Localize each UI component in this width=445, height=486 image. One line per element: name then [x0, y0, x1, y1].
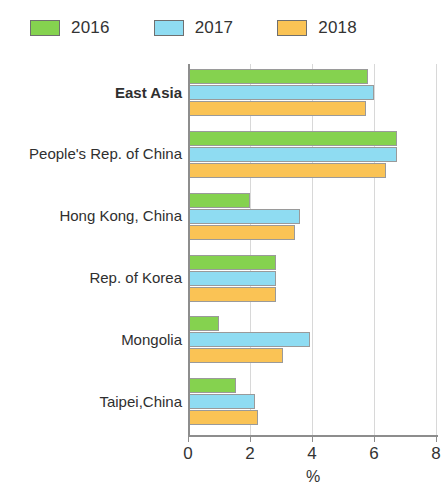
bar-2018 [188, 410, 258, 425]
bar-2017 [188, 85, 374, 100]
x-tick-mark [250, 437, 251, 442]
bar-2017 [188, 271, 276, 286]
bar-group [188, 378, 436, 430]
bar-2016 [188, 193, 250, 208]
bar-2016 [188, 131, 397, 146]
bar-2018 [188, 287, 276, 302]
x-axis-title: % [188, 468, 438, 486]
chart-legend: 2016 2017 2018 [0, 0, 439, 56]
category-label: People's Rep. of China [2, 145, 182, 162]
bar-2016 [188, 378, 236, 393]
x-tick-mark [312, 437, 313, 442]
bar-group [188, 316, 436, 368]
x-tick-mark [436, 437, 437, 442]
bar-2016 [188, 255, 276, 270]
bar-2017 [188, 394, 255, 409]
legend-label-2017: 2017 [195, 18, 234, 38]
legend-swatch-2017-icon [154, 20, 184, 36]
y-axis-line [188, 64, 190, 435]
category-label: Rep. of Korea [2, 269, 182, 286]
plot-area [188, 64, 436, 435]
bar-2016 [188, 316, 219, 331]
x-tick-label: 4 [292, 444, 332, 464]
bar-chart: East AsiaPeople's Rep. of ChinaHong Kong… [0, 56, 439, 481]
category-label: Hong Kong, China [2, 207, 182, 224]
x-tick-label: 8 [416, 444, 445, 464]
category-axis-labels: East AsiaPeople's Rep. of ChinaHong Kong… [0, 64, 182, 435]
category-label: Mongolia [2, 331, 182, 348]
x-axis-line [188, 435, 438, 437]
legend-swatch-2016-icon [30, 20, 60, 36]
bar-2017 [188, 147, 397, 162]
bar-2018 [188, 163, 386, 178]
x-tick-label: 2 [230, 444, 270, 464]
bar-group [188, 69, 436, 121]
legend-item-2016: 2016 [30, 18, 110, 38]
bar-2017 [188, 209, 300, 224]
legend-swatch-2018-icon [277, 20, 307, 36]
x-tick-mark [188, 437, 189, 442]
legend-item-2018: 2018 [277, 18, 357, 38]
legend-label-2018: 2018 [318, 18, 357, 38]
bar-2018 [188, 225, 295, 240]
category-label: East Asia [2, 84, 182, 101]
bar-group [188, 131, 436, 183]
legend-label-2016: 2016 [71, 18, 110, 38]
bar-2018 [188, 348, 283, 363]
legend-item-2017: 2017 [154, 18, 234, 38]
bar-group [188, 193, 436, 245]
gridline [436, 64, 437, 435]
x-tick-label: 6 [354, 444, 394, 464]
bar-2017 [188, 332, 310, 347]
bar-group [188, 255, 436, 307]
category-label: Taipei,China [2, 393, 182, 410]
bar-2016 [188, 69, 368, 84]
x-tick-mark [374, 437, 375, 442]
x-tick-label: 0 [168, 444, 208, 464]
bar-2018 [188, 101, 366, 116]
